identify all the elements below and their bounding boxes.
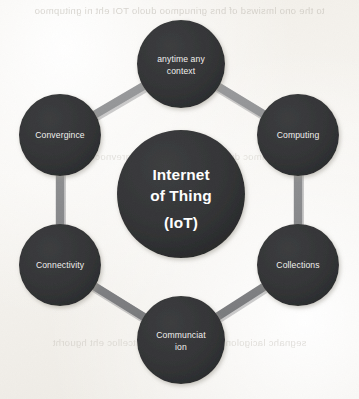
scan-grain-overlay: [0, 0, 359, 399]
iot-cycle-diagram: anytime any context Computing Collection…: [0, 0, 359, 399]
diagram-canvas: to the ono lmsiwsd of bns grinuqmoo duol…: [0, 0, 359, 399]
